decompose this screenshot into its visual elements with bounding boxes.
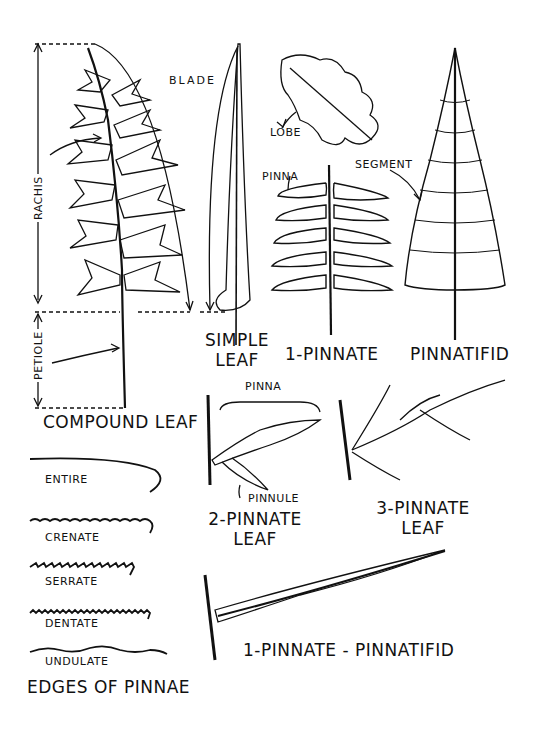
simple-leaf-drawing — [216, 44, 250, 345]
edge-label-serrate: SERRATE — [45, 575, 98, 588]
simple-leaf-title-line2: LEAF — [202, 350, 272, 370]
one-pinnate-title: 1-PINNATE — [285, 344, 379, 364]
edge-serrate — [30, 563, 134, 575]
two-pinnate-title-line2: LEAF — [200, 529, 310, 549]
edge-label-undulate: UNDULATE — [45, 655, 109, 668]
one-pinnate-pinnatifid-title: 1-PINNATE - PINNATIFID — [243, 640, 454, 660]
three-pinnate-title-line2: LEAF — [368, 518, 478, 538]
compound-leaf-drawing — [68, 48, 185, 408]
edge-label-entire: ENTIRE — [45, 473, 88, 486]
pinnatifid-title: PINNATIFID — [410, 344, 509, 364]
simple-leaf-title-line1: SIMPLE — [202, 330, 272, 350]
three-pinnate-drawing — [340, 380, 505, 480]
lobe-label: LOBE — [270, 126, 301, 139]
two-pinnate-drawing — [208, 395, 320, 498]
two-pinnate-title-line1: 2-PINNATE — [200, 509, 310, 529]
edge-label-crenate: CRENATE — [45, 531, 99, 544]
two-pinnate-pinna-label: PINNA — [245, 380, 281, 393]
edge-label-dentate: DENTATE — [45, 617, 98, 630]
edge-undulate — [30, 646, 167, 654]
blade-label: BLADE — [167, 74, 218, 87]
pinna-label: PINNA — [262, 170, 298, 183]
rachis-label: RACHIS — [32, 174, 45, 222]
one-pinnate-drawing — [272, 165, 392, 335]
pinnule-label: PINNULE — [248, 492, 299, 505]
pinnatifid-drawing — [390, 48, 505, 340]
compound-leaf-title: COMPOUND LEAF — [43, 412, 198, 432]
edges-title: EDGES OF PINNAE — [27, 677, 190, 697]
petiole-label: PETIOLE — [32, 329, 45, 382]
segment-label: SEGMENT — [355, 158, 412, 171]
three-pinnate-title-line1: 3-PINNATE — [368, 498, 478, 518]
